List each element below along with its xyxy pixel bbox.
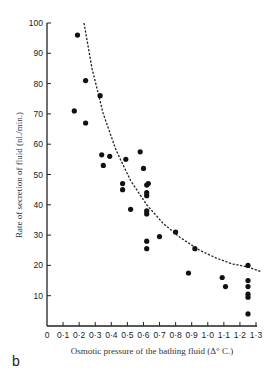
x-tick-label: 0·1 bbox=[57, 330, 70, 340]
data-point bbox=[146, 181, 151, 186]
y-tick-label: 30 bbox=[34, 230, 44, 240]
data-point bbox=[157, 234, 162, 239]
scatter-chart: 10203040506070809010000·10·20·30·40·50·6… bbox=[0, 0, 271, 380]
data-point bbox=[245, 263, 250, 268]
data-point bbox=[120, 187, 125, 192]
data-point bbox=[144, 239, 149, 244]
data-point bbox=[144, 246, 149, 251]
data-point bbox=[245, 295, 250, 300]
x-tick-label: 0·8 bbox=[169, 330, 182, 340]
data-point bbox=[98, 93, 103, 98]
y-tick-label: 100 bbox=[29, 18, 43, 28]
data-point bbox=[245, 284, 250, 289]
y-tick-label: 50 bbox=[34, 170, 44, 180]
axes: 10203040506070809010000·10·20·30·40·50·6… bbox=[29, 18, 263, 340]
data-point bbox=[173, 230, 178, 235]
y-tick-label: 20 bbox=[34, 260, 44, 270]
data-point bbox=[83, 78, 88, 83]
data-point bbox=[141, 166, 146, 171]
data-point bbox=[144, 193, 149, 198]
x-tick-label: 0·7 bbox=[153, 330, 166, 340]
fitted-curve bbox=[84, 23, 261, 272]
data-point bbox=[123, 157, 128, 162]
y-tick-label: 60 bbox=[34, 139, 44, 149]
data-point bbox=[83, 120, 88, 125]
data-points bbox=[72, 33, 251, 317]
data-point bbox=[144, 211, 149, 216]
data-point bbox=[128, 207, 133, 212]
data-point bbox=[192, 246, 197, 251]
x-tick-label: 0·2 bbox=[73, 330, 86, 340]
y-axis-title: Rate of secretion of fluid (nl./min.) bbox=[14, 112, 24, 238]
x-tick-label: 0·5 bbox=[121, 330, 134, 340]
data-point bbox=[220, 275, 225, 280]
data-point bbox=[245, 311, 250, 316]
panel-label: b bbox=[12, 353, 20, 369]
data-point bbox=[72, 108, 77, 113]
x-tick-label: 0·6 bbox=[137, 330, 150, 340]
data-point bbox=[75, 33, 80, 38]
x-tick-label: 1·1 bbox=[218, 330, 231, 340]
data-point bbox=[101, 163, 106, 168]
x-tick-label: 1·3 bbox=[250, 330, 263, 340]
x-tick-label: 0·9 bbox=[186, 330, 199, 340]
x-tick-label: 1·2 bbox=[234, 330, 247, 340]
x-tick-label: 0 bbox=[45, 330, 50, 340]
dashed-curve bbox=[84, 23, 261, 272]
data-point bbox=[120, 181, 125, 186]
y-tick-label: 70 bbox=[34, 109, 44, 119]
x-axis-title: Osmotic pressure of the bathing fluid (Δ… bbox=[71, 346, 233, 356]
data-point bbox=[186, 270, 191, 275]
data-point bbox=[138, 149, 143, 154]
data-point bbox=[245, 278, 250, 283]
data-point bbox=[107, 154, 112, 159]
x-tick-label: 1·0 bbox=[202, 330, 215, 340]
data-point bbox=[99, 152, 104, 157]
y-tick-label: 10 bbox=[34, 291, 44, 301]
y-tick-label: 80 bbox=[34, 79, 44, 89]
x-tick-label: 0·3 bbox=[89, 330, 102, 340]
y-tick-label: 90 bbox=[34, 48, 44, 58]
data-point bbox=[223, 284, 228, 289]
y-tick-label: 40 bbox=[34, 200, 44, 210]
x-tick-label: 0·4 bbox=[105, 330, 118, 340]
